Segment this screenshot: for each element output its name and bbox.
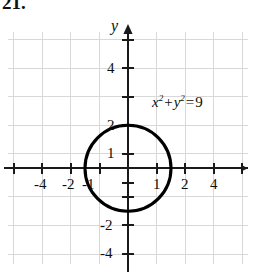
- x-tick-label-neg4: -4: [34, 177, 47, 192]
- equation-var-x: x: [152, 94, 159, 110]
- x-tick-label-2: 2: [181, 177, 189, 192]
- x-tick-label-neg1: -1: [82, 177, 95, 192]
- x-tick-label-1: 1: [153, 177, 161, 192]
- y-tick-label-1: 1: [107, 146, 115, 161]
- y-tick-label-neg4: -4: [100, 246, 113, 261]
- equation-equals: =: [185, 94, 195, 110]
- x-tick-label-neg2: -2: [62, 177, 75, 192]
- y-axis: [123, 24, 132, 272]
- x-tick-label-4: 4: [210, 177, 218, 192]
- graph-svg: [0, 22, 254, 272]
- x-axis: [4, 165, 248, 172]
- y-tick-label-neg2: -2: [100, 218, 113, 233]
- equation-rhs: 9: [195, 94, 203, 110]
- y-tick-label-2: 2: [107, 118, 115, 133]
- y-axis-arrow: [123, 24, 132, 34]
- y-tick-label-4: 4: [107, 61, 115, 76]
- problem-number: 21.: [2, 0, 26, 12]
- figure-screenshot: 21.: [0, 0, 254, 272]
- y-axis-label: y: [111, 18, 118, 34]
- equation-plus: +: [163, 94, 173, 110]
- equation-annotation: x2+y2=9: [152, 94, 203, 111]
- coordinate-plane: -4 -2 -1 1 2 4 4 2 1 -2 -4 y x2+y2=9: [0, 22, 254, 272]
